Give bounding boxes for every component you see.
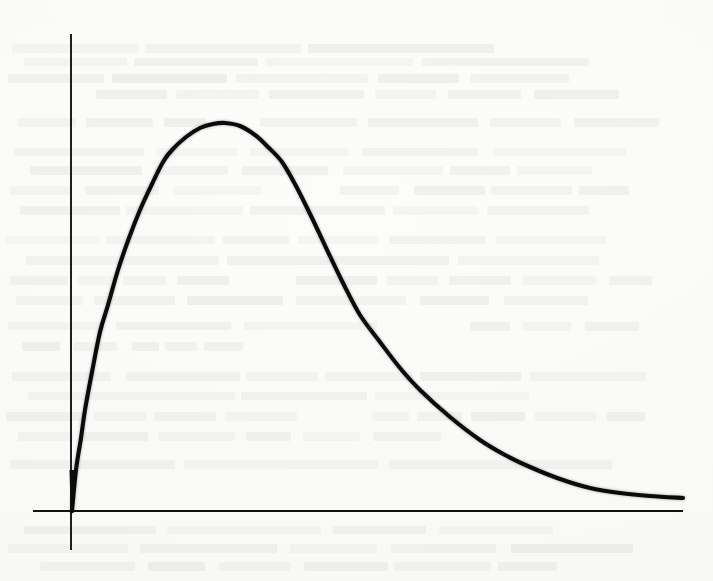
density-curve bbox=[72, 123, 683, 511]
scanned-page bbox=[0, 0, 713, 581]
distribution-plot bbox=[0, 0, 713, 581]
density-curve-halo bbox=[72, 123, 683, 511]
